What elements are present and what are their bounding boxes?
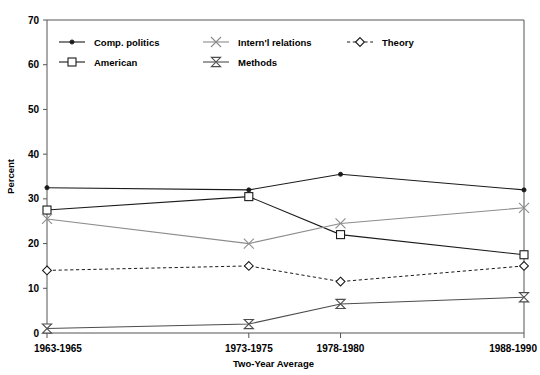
marker-square bbox=[337, 231, 345, 239]
legend-item-intern-l-relations: Intern'l relations bbox=[203, 37, 312, 48]
marker-square bbox=[68, 58, 76, 66]
y-tick-label-70: 70 bbox=[28, 15, 40, 26]
x-tick-label-2: 1978-1980 bbox=[317, 343, 365, 354]
series-american bbox=[43, 193, 528, 259]
legend-item-methods: Methods bbox=[203, 57, 277, 68]
legend-label: Intern'l relations bbox=[238, 37, 312, 48]
marker-dot bbox=[70, 40, 74, 44]
x-axis-title: Two-Year Average bbox=[233, 358, 314, 369]
y-axis-title: Percent bbox=[5, 158, 16, 194]
y-tick-label-60: 60 bbox=[28, 59, 40, 70]
legend-item-theory: Theory bbox=[347, 37, 414, 48]
legend-item-american: American bbox=[59, 57, 137, 68]
legend-label: Comp. politics bbox=[94, 37, 159, 48]
x-tick-label-1: 1973-1975 bbox=[225, 343, 273, 354]
y-tick-label-30: 30 bbox=[28, 193, 40, 204]
marker-square bbox=[520, 251, 528, 259]
chart-container: 010203040506070Percent1963-19651973-1975… bbox=[0, 0, 540, 375]
y-tick-label-40: 40 bbox=[28, 149, 40, 160]
marker-diamond bbox=[244, 262, 253, 271]
y-tick-label-0: 0 bbox=[33, 328, 39, 339]
marker-square bbox=[245, 193, 253, 201]
series-line bbox=[47, 197, 524, 255]
series-comp-politics bbox=[45, 172, 526, 192]
y-axis: 010203040506070 bbox=[28, 15, 47, 339]
marker-dot bbox=[45, 186, 49, 190]
series-line bbox=[47, 174, 524, 190]
series-intern-l-relations bbox=[42, 203, 529, 249]
marker-diamond bbox=[336, 277, 345, 286]
chart-legend: Comp. politicsAmericanIntern'l relations… bbox=[59, 37, 414, 68]
legend-item-comp-politics: Comp. politics bbox=[59, 37, 159, 48]
line-chart: 010203040506070Percent1963-19651973-1975… bbox=[0, 0, 540, 375]
y-tick-label-20: 20 bbox=[28, 238, 40, 249]
marker-diamond bbox=[520, 262, 529, 271]
series-line bbox=[47, 297, 524, 328]
marker-dot bbox=[522, 188, 526, 192]
marker-diamond bbox=[43, 266, 52, 275]
legend-label: American bbox=[94, 57, 137, 68]
y-tick-label-50: 50 bbox=[28, 104, 40, 115]
marker-dot bbox=[247, 188, 251, 192]
x-tick-label-0: 1963-1965 bbox=[34, 343, 82, 354]
series-methods bbox=[42, 293, 528, 334]
marker-dot bbox=[338, 172, 342, 176]
series-line bbox=[47, 266, 524, 282]
x-tick-label-3: 1988-1990 bbox=[489, 343, 537, 354]
series-line bbox=[47, 208, 524, 244]
series-theory bbox=[43, 262, 529, 286]
x-axis: 1963-19651973-19751978-19801988-1990 bbox=[34, 333, 537, 354]
legend-label: Methods bbox=[238, 57, 277, 68]
y-tick-label-10: 10 bbox=[28, 283, 40, 294]
marker-square bbox=[43, 206, 51, 214]
marker-diamond bbox=[356, 38, 365, 47]
legend-label: Theory bbox=[382, 37, 414, 48]
